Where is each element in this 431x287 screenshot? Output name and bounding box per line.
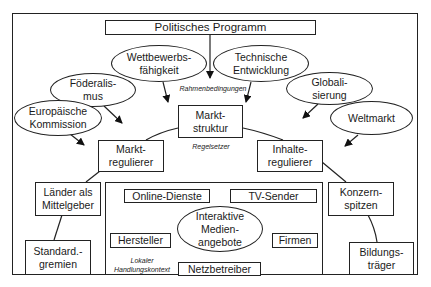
technical-development-ellipse: Technische Entwicklung — [213, 45, 309, 82]
online-services-box: Online-Dienste — [124, 189, 210, 203]
education-providers-box: Bildungs- träger — [349, 242, 414, 275]
interactive-media-ellipse: Interaktive Medien- angebote — [177, 206, 263, 252]
political-program-box: Politisches Programm — [105, 20, 316, 35]
world-market-ellipse: Weltmarkt — [330, 101, 413, 135]
globalization-ellipse: Globali- sierung — [286, 72, 373, 105]
market-structure-box: Markt- struktur — [178, 105, 243, 138]
market-regulator-box: Markt- regulierer — [98, 140, 164, 172]
network-operators-box: Netzbetreiber — [178, 262, 261, 276]
states-funders-box: Länder als Mittelgeber — [35, 182, 101, 216]
local-context-label: Lokaler Handlungskontext — [108, 256, 176, 274]
standard-bodies-box: Standard.- gremien — [25, 240, 91, 275]
tv-broadcasters-box: TV-Sender — [230, 189, 317, 203]
companies-box: Firmen — [272, 233, 318, 248]
competitiveness-ellipse: Wettbewerbs- fähigkeit — [111, 45, 207, 82]
european-commission-ellipse: Europäische Kommission — [14, 100, 102, 136]
corporate-heads-box: Konzern- spitzen — [328, 182, 394, 216]
framework-conditions-label: Rahmenbedingungen — [168, 84, 258, 93]
content-regulator-box: Inhalte- regulierer — [257, 140, 323, 172]
manufacturers-box: Hersteller — [110, 233, 171, 248]
rule-setter-label: Regelsetzer — [180, 142, 242, 151]
